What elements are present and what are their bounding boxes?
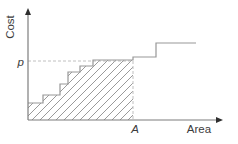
x-axis-arrow-icon [216, 117, 223, 123]
figure-canvas: Cost p A Area [0, 0, 238, 144]
x-axis-label: Area [187, 123, 212, 135]
area-marker-label: A [130, 123, 139, 135]
price-level-label: p [17, 56, 25, 68]
y-axis-arrow-icon [25, 8, 31, 15]
cost-area-step-diagram: Cost p A Area [0, 0, 238, 144]
y-axis-label: Cost [4, 14, 16, 38]
